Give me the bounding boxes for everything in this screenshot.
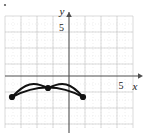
coordinate-plane: 5 5 y x [0, 0, 143, 137]
endpoint-right [80, 94, 86, 100]
endpoint-left [9, 94, 15, 100]
y-axis-arrowhead [66, 12, 72, 17]
artifact-speck-icon [4, 4, 6, 6]
vertex-point [45, 85, 51, 91]
axes [5, 12, 143, 133]
y-axis-tick-label-5: 5 [59, 22, 64, 33]
x-axis-tick-label-5: 5 [119, 80, 124, 91]
y-axis-label: y [59, 5, 65, 17]
graph-figure: 5 5 y x [0, 0, 143, 137]
x-axis-label: x [132, 80, 138, 92]
x-axis-arrowhead [138, 73, 143, 79]
